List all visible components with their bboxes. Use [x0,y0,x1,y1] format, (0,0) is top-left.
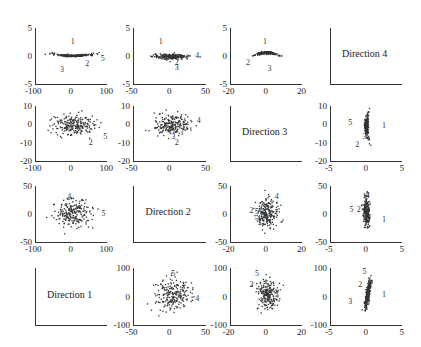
x-axis-line [133,242,206,243]
x-axis-line [230,242,302,243]
x-tick-label: 5 [400,328,405,337]
x-tick-label: 20 [297,328,306,337]
outlier-label: 1 [159,38,163,46]
y-tick-label: 100 [314,264,328,273]
x-tick-label: 100 [100,164,114,173]
outlier-label: 3 [268,65,272,73]
y-axis-line [35,268,36,325]
x-tick-label: -5 [325,328,333,337]
x-axis-line [330,161,402,162]
x-tick-label: 0 [167,164,172,173]
outlier-label: 2 [250,207,254,215]
scatter-panel-r2c4: 100-10-20-5055132 [330,106,402,161]
x-axis-line [35,325,107,326]
x-tick-label: 100 [100,87,114,96]
x-axis-line [35,242,107,243]
x-tick-label: 0 [167,87,172,96]
x-axis-line [35,161,107,162]
x-tick-label: -50 [126,164,138,173]
scatter-points [330,268,402,325]
y-tick-label: 50 [23,182,32,191]
scatter-panel-r4c2: 1000-100-5005054 [133,268,206,325]
y-tick-label: 100 [117,264,131,273]
x-tick-label: -20 [223,328,235,337]
y-axis-line [230,106,231,161]
scatter-panel-r4c4: 1000-100-5055213 [330,268,402,325]
y-tick-label: 0 [28,120,33,129]
y-tick-label: 5 [28,24,33,33]
x-tick-label: -50 [126,87,138,96]
outlier-label: 4 [195,295,199,303]
outlier-label: 2 [85,60,89,68]
x-tick-label: 50 [201,164,210,173]
x-tick-label: -5 [325,164,333,173]
scatter-points [230,268,302,325]
scatter-panel-r3c1: 500-50-100010045 [35,186,107,242]
outlier-label: 2 [355,141,359,149]
scatter-panel-r2c1: 100-10-20-100010025 [35,106,107,161]
outlier-label: 5 [101,210,105,218]
y-tick-label: 0 [126,52,131,61]
scatter-panel-r3c2: Direction 2 [133,186,206,242]
y-tick-label: -10 [20,139,32,148]
x-tick-label: 0 [69,164,74,173]
x-tick-label: -20 [223,245,235,254]
x-tick-label: 50 [201,328,210,337]
x-axis-line [35,84,107,85]
y-tick-label: -10 [315,139,327,148]
scatter-panel-r2c3: Direction 3 [230,106,302,161]
y-tick-label: 50 [318,182,327,191]
outlier-label: 5 [363,268,367,276]
y-tick-label: 0 [223,210,228,219]
x-axis-line [330,242,402,243]
diagonal-label: Direction 2 [146,206,191,217]
x-axis-line [230,325,302,326]
y-tick-label: 10 [318,102,327,111]
y-tick-label: 0 [223,293,228,302]
y-tick-label: 0 [126,293,131,302]
x-axis-line [330,84,402,85]
scatter-panel-r1c4: Direction 4 [330,28,402,84]
outlier-label: 2 [175,139,179,147]
x-tick-label: -20 [223,87,235,96]
outlier-label: 5 [255,208,259,216]
scatter-points [133,106,206,161]
outlier-label: 5 [103,133,107,141]
scatter-panel-r3c4: 500-50-5054521 [330,186,402,242]
x-tick-label: 50 [201,87,210,96]
scatter-panel-r1c3: 50-5-20020123 [230,28,302,84]
outlier-label: 1 [382,291,386,299]
x-tick-label: 0 [364,328,369,337]
scatter-panel-r3c3: 500-50-20020425 [230,186,302,242]
x-tick-label: -50 [126,328,138,337]
x-tick-label: 5 [400,164,405,173]
x-tick-label: -100 [25,164,42,173]
x-tick-label: 0 [364,164,369,173]
outlier-label: 2 [357,206,361,214]
outlier-label: 2 [246,59,250,67]
outlier-label: 2 [250,281,254,289]
y-tick-label: 0 [28,210,33,219]
x-tick-label: -5 [325,245,333,254]
outlier-label: 3 [60,66,64,74]
outlier-label: 1 [263,38,267,46]
y-tick-label: 0 [223,52,228,61]
x-tick-label: 0 [264,328,269,337]
x-axis-line [133,161,206,162]
x-axis-line [330,325,402,326]
x-tick-label: 0 [69,87,74,96]
diagonal-label: Direction 1 [47,289,92,300]
x-tick-label: 20 [297,87,306,96]
y-tick-label: 5 [126,24,131,33]
x-tick-label: -100 [25,87,42,96]
outlier-label: 5 [171,270,175,278]
outlier-label: 5 [350,206,354,214]
outlier-label: 1 [382,122,386,130]
y-tick-label: 10 [23,102,32,111]
scatter-points [35,106,107,161]
x-tick-label: 0 [167,328,172,337]
outlier-label: 2 [358,281,362,289]
y-tick-label: -10 [118,139,130,148]
outlier-label: 3 [363,133,367,141]
scatter-matrix: 50-5-1000100123550-5-50050142350-5-20020… [0,0,421,347]
